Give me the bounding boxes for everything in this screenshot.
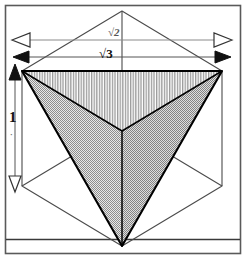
dimension-edge-arrow-top-icon (9, 64, 21, 80)
dimension-sqrt2-label: √2 (108, 27, 120, 38)
dimension-sqrt3-label: √3 (99, 47, 113, 60)
dimension-edge-vertical (9, 64, 21, 192)
geometry-figure: √2 √3 1 · (0, 0, 246, 259)
figure-canvas (0, 0, 246, 259)
dimension-edge-sublabel: · (10, 131, 13, 139)
dimension-sqrt2-arrow-left-icon (12, 33, 30, 47)
tetrahedron (22, 71, 222, 246)
dimension-sqrt2-arrow-right-icon (214, 33, 232, 47)
dimension-edge-label: 1 (9, 110, 17, 125)
dimension-edge-arrow-bottom-icon (9, 176, 21, 192)
dimension-sqrt3-arrow-right-icon (215, 51, 231, 63)
dimension-sqrt3-arrow-left-icon (13, 51, 29, 63)
